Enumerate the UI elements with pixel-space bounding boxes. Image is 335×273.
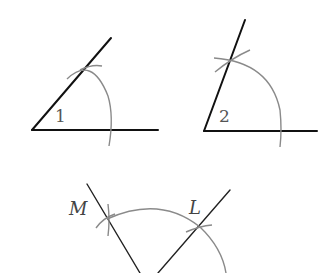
angle-1-figure bbox=[32, 38, 158, 146]
construction-figure bbox=[87, 184, 230, 273]
geometry-diagram: 1 2 M L bbox=[0, 0, 335, 273]
angle-2-figure bbox=[204, 20, 317, 147]
line-through-m bbox=[87, 184, 140, 273]
angle-2-arc bbox=[214, 58, 281, 147]
diagram-canvas bbox=[0, 0, 335, 273]
point-m-label: M bbox=[69, 200, 87, 218]
angle-1-slant-ray bbox=[32, 38, 111, 130]
angle-1-label: 1 bbox=[55, 108, 66, 125]
point-l-label: L bbox=[189, 199, 201, 217]
angle-2-label: 2 bbox=[219, 108, 230, 125]
